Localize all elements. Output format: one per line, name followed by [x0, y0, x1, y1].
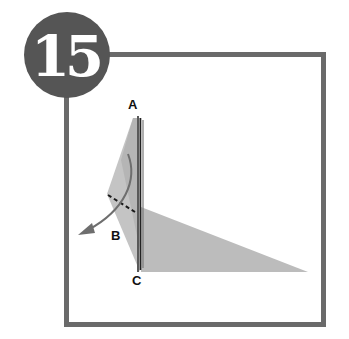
point-label-b: B — [111, 228, 120, 243]
point-label-a: A — [128, 97, 137, 112]
arrow-head-icon — [78, 223, 95, 235]
right-triangle-flap — [141, 207, 308, 272]
origami-diagram — [0, 0, 349, 339]
point-label-c: C — [132, 273, 141, 288]
